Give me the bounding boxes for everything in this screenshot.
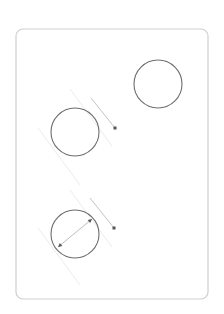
ray-endpoint-dot (113, 227, 116, 230)
frame-border (16, 29, 208, 299)
ray-endpoint-dot (114, 127, 117, 130)
diagram-canvas (0, 0, 224, 314)
